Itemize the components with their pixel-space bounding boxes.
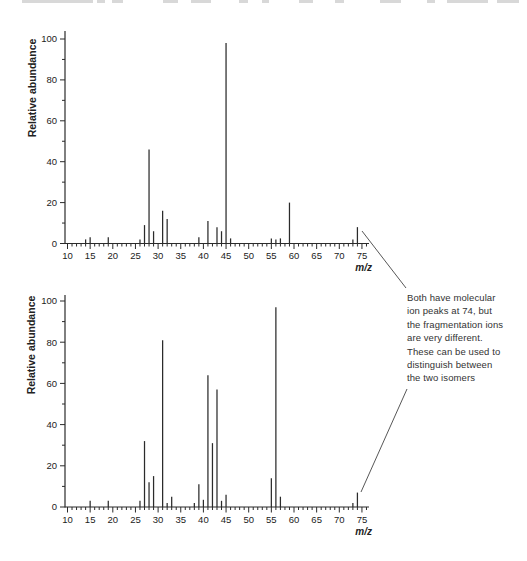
x-tick-label: 10: [62, 514, 73, 525]
y-tick-label: 0: [52, 501, 57, 512]
top-spectrum-chart: 0204060801001015202530354045505560657075…: [26, 31, 372, 273]
x-tick-label: 65: [311, 514, 322, 525]
artifact-strip-segment: [427, 0, 435, 3]
x-tick-label: 55: [266, 514, 277, 525]
annotation-note: Both have molecular ion peaks at 74, but…: [407, 291, 527, 385]
y-tick-label: 0: [52, 238, 57, 249]
x-tick-label: 25: [130, 250, 141, 261]
y-tick-label: 100: [41, 33, 57, 44]
x-tick-label: 40: [198, 514, 209, 525]
x-tick-label: 45: [221, 514, 232, 525]
x-tick-label: 75: [357, 514, 368, 525]
y-tick-label: 80: [46, 74, 57, 85]
x-tick-label: 25: [130, 514, 141, 525]
x-tick-label: 65: [311, 250, 322, 261]
x-tick-label: 15: [85, 514, 96, 525]
artifact-strip-segment: [97, 0, 105, 3]
artifact-strip-segment: [163, 0, 178, 3]
x-tick-label: 30: [153, 514, 164, 525]
artifact-strip-segment: [497, 0, 519, 3]
x-tick-label: 30: [153, 250, 164, 261]
x-tick-label: 35: [175, 250, 186, 261]
y-tick-label: 20: [46, 197, 57, 208]
y-tick-label: 40: [46, 419, 57, 430]
x-tick-label: 70: [334, 514, 345, 525]
y-tick-label: 100: [41, 295, 57, 306]
x-axis-title: m/z: [355, 262, 372, 273]
artifact-strip-segment: [262, 0, 269, 3]
artifact-strip-segment: [22, 0, 93, 3]
x-tick-label: 60: [289, 514, 300, 525]
x-tick-label: 10: [62, 250, 73, 261]
x-tick-label: 50: [243, 250, 254, 261]
x-tick-label: 50: [243, 514, 254, 525]
artifact-strip-segment: [239, 0, 248, 3]
x-tick-label: 60: [289, 250, 300, 261]
x-axis-title: m/z: [355, 526, 372, 537]
x-tick-label: 20: [108, 250, 119, 261]
y-axis-title: Relative abundance: [26, 39, 38, 138]
y-tick-label: 40: [46, 156, 57, 167]
artifact-strip-segment: [112, 0, 123, 3]
artifact-strip-segment: [380, 0, 401, 3]
y-tick-label: 60: [46, 115, 57, 126]
x-tick-label: 35: [175, 514, 186, 525]
x-tick-label: 55: [266, 250, 277, 261]
y-tick-label: 20: [46, 460, 57, 471]
x-tick-label: 45: [221, 250, 232, 261]
x-tick-label: 15: [85, 250, 96, 261]
artifact-strip-segment: [447, 0, 488, 3]
y-tick-label: 80: [46, 337, 57, 348]
mass-spectra-canvas: 0204060801001015202530354045505560657075…: [0, 0, 527, 561]
x-tick-label: 70: [334, 250, 345, 261]
artifact-strip-segment: [191, 0, 211, 3]
artifact-strip-segment: [299, 0, 313, 3]
leader-line: [361, 389, 407, 492]
y-axis-title: Relative abundance: [25, 296, 37, 395]
y-tick-label: 60: [46, 378, 57, 389]
bottom-spectrum-chart: 0204060801001015202530354045505560657075…: [25, 295, 372, 537]
x-tick-label: 20: [108, 514, 119, 525]
mass-spectrometry-figure: 0204060801001015202530354045505560657075…: [0, 0, 527, 561]
x-tick-label: 75: [357, 250, 368, 261]
cutoff-text-artifact: [22, 0, 519, 3]
artifact-strip-segment: [335, 0, 344, 3]
x-tick-label: 40: [198, 250, 209, 261]
leader-line: [362, 231, 406, 288]
